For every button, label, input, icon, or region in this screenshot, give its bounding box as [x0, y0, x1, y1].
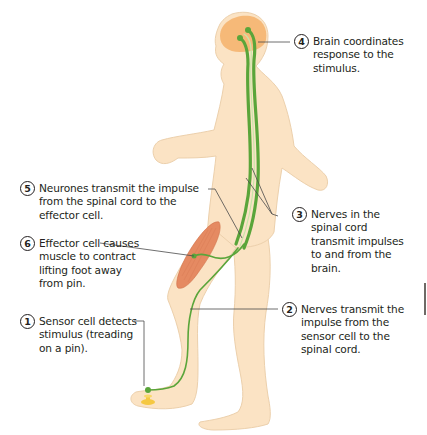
step-6-number: 6 [20, 236, 35, 251]
step-2-label: 2 Nerves transmit the impulse from the s… [282, 303, 404, 357]
step-3-text: Nerves in the spinal cord transmit impul… [311, 208, 404, 275]
step-6-text: Effector cell causes muscle to contract … [39, 237, 139, 291]
step-4-label: 4 Brain coordinates response to the stim… [294, 35, 404, 75]
step-4-number: 4 [294, 34, 309, 49]
step-2-text: Nerves transmit the impulse from the sen… [301, 303, 404, 357]
step-2-number: 2 [282, 302, 297, 317]
step-1-text: Sensor cell detects stimulus (treading o… [39, 315, 137, 355]
step-6-label: 6 Effector cell causes muscle to contrac… [20, 237, 139, 291]
step-5-label: 5 Neurones transmit the impulse from the… [20, 182, 199, 222]
step-1-number: 1 [20, 314, 35, 329]
step-5-number: 5 [20, 181, 35, 196]
step-3-number: 3 [292, 207, 307, 222]
step-4-text: Brain coordinates response to the stimul… [313, 35, 404, 75]
page-edge-marker [424, 283, 426, 315]
step-3-label: 3 Nerves in the spinal cord transmit imp… [292, 208, 404, 275]
step-1-label: 1 Sensor cell detects stimulus (treading… [20, 315, 137, 355]
step-5-text: Neurones transmit the impulse from the s… [39, 182, 199, 222]
